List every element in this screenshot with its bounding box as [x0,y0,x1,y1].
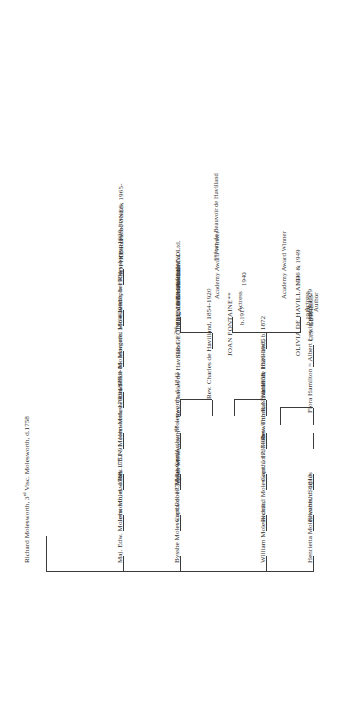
detail-olivia-award: Academy Award Winner [280,231,287,299]
node-walter-dh: Walter de Havilland, b. 1872 [260,316,267,399]
connector-hamilton-top [280,408,281,425]
detail-cs-lewis-occupation: Author [312,292,319,312]
node-rev-charles-dh: Rev. Charles de Havilland, 1854-1920 [206,289,213,399]
connector-gen5-thomas-hamilton [313,433,314,449]
detail-joan-award-year: 1940 [240,272,247,286]
family-tree-canvas: Richard Molesworth, 3rd Visc. Molesworth… [0,0,363,713]
node-joan-fontaine: JOAN FONTAINE** [226,292,233,356]
detail-joan-occupation: Actress [236,291,243,312]
node-olivia-dh: OLIVIA DE HAVILLAND [294,276,301,356]
detail-geoffrey-role-3: Aircraft Co. Ltd. [174,241,181,287]
connector-margaret-marriage-top [234,400,235,416]
connector-dehavilland-marriage-right [212,400,213,416]
footnote-joan-fontaine: **Joan de Beauvoir de Havilland [212,173,219,261]
detail-olivia-award-years: 1946 & 1949 [294,250,301,286]
node-elizabeth-staples: Elizabeth Staples [307,472,314,522]
node-agnes-label: Agnes Molesworth [174,431,182,486]
node-richard-3rd-visc-sup: rd [22,492,27,496]
node-richard-3rd-visc: Richard Molesworth, 3rd Visc. Molesworth… [23,416,32,563]
chart-rotation-wrapper: Richard Molesworth, 3rd Visc. Molesworth… [0,0,363,713]
node-agnes-sup-first: 1st [173,426,178,432]
connector-vertical-dehavilland-marriage [180,399,212,400]
connector-horizontal-gen1-stub [46,536,47,572]
detail-sophie-title: Countess of Wessex [117,203,124,258]
node-richard-3rd-visc-label: Richard Molesworth, 3 [23,496,31,563]
node-richard-3rd-visc-tail: Visc. Molesworth, d.1758 [23,416,31,492]
